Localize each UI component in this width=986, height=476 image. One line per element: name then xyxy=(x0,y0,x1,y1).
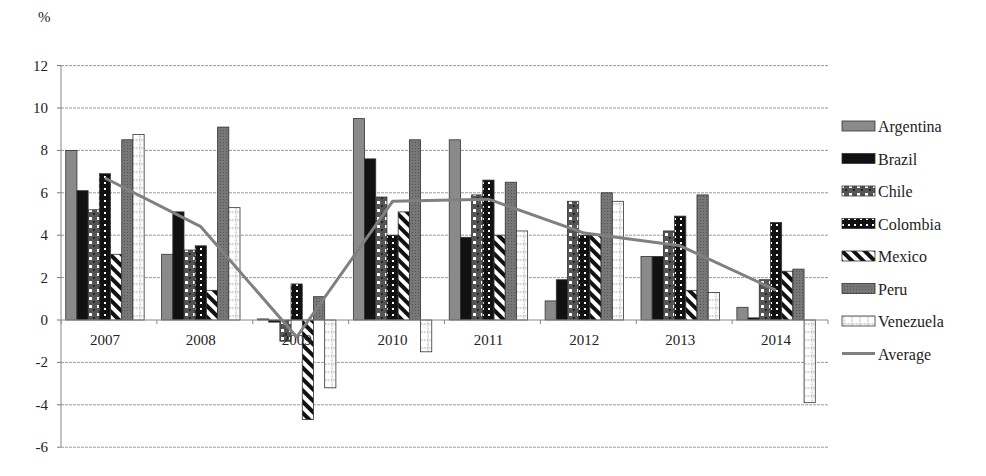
bar-mexico-2014 xyxy=(782,271,793,320)
y-axis-unit-label: % xyxy=(38,9,51,25)
bar-mexico-2010 xyxy=(398,212,409,320)
legend-swatch-brazil xyxy=(842,154,875,164)
bar-venezuela-2011 xyxy=(516,231,527,320)
bar-colombia-2014 xyxy=(770,222,781,320)
bar-mexico-2012 xyxy=(590,235,601,320)
bar-venezuela-2007 xyxy=(133,135,144,321)
bar-colombia-2009 xyxy=(291,284,302,320)
bar-chile-2012 xyxy=(568,201,579,320)
bar-argentina-2007 xyxy=(66,150,77,320)
bar-venezuela-2013 xyxy=(708,292,719,320)
legend-label: Argentina xyxy=(878,118,942,136)
y-tick-label: -4 xyxy=(36,397,49,413)
bar-peru-2007 xyxy=(122,140,133,320)
x-tick-label: 2009 xyxy=(282,332,312,348)
bar-peru-2010 xyxy=(409,140,420,320)
bar-brazil-2013 xyxy=(652,256,663,320)
y-tick-label: -6 xyxy=(36,439,49,455)
x-tick-label: 2012 xyxy=(569,332,599,348)
bar-argentina-2011 xyxy=(449,140,460,320)
bar-brazil-2007 xyxy=(77,191,88,320)
legend-label: Brazil xyxy=(878,151,918,168)
legend-label: Venezuela xyxy=(878,313,944,330)
y-tick-label: -2 xyxy=(36,354,49,370)
bar-peru-2012 xyxy=(601,193,612,320)
y-tick-label: 10 xyxy=(33,100,48,116)
bar-colombia-2012 xyxy=(579,235,590,320)
x-tick-label: 2011 xyxy=(474,332,503,348)
bar-chart: % -6-4-2024681012 2007200820092010201120… xyxy=(0,0,986,476)
legend-swatch-argentina xyxy=(842,121,875,131)
bar-colombia-2008 xyxy=(195,246,206,320)
legend-label: Average xyxy=(878,346,931,364)
legend: ArgentinaBrazilChileColombiaMexicoPeruVe… xyxy=(842,118,944,364)
x-tick-label: 2007 xyxy=(90,332,121,348)
bar-chile-2007 xyxy=(88,210,99,320)
legend-item-chile: Chile xyxy=(842,183,913,200)
bar-brazil-2012 xyxy=(556,280,567,320)
y-tick-label: 12 xyxy=(33,58,48,74)
x-tick-label: 2010 xyxy=(378,332,408,348)
y-tick-label: 4 xyxy=(41,227,49,243)
x-tick-label: 2008 xyxy=(186,332,216,348)
legend-item-venezuela: Venezuela xyxy=(842,313,944,330)
bar-peru-2011 xyxy=(505,182,516,320)
bar-colombia-2013 xyxy=(675,216,686,320)
y-tick-label: 0 xyxy=(41,312,49,328)
legend-item-peru: Peru xyxy=(842,281,907,298)
bar-brazil-2011 xyxy=(460,237,471,320)
bar-venezuela-2009 xyxy=(325,320,336,388)
bar-series xyxy=(66,119,816,420)
legend-item-brazil: Brazil xyxy=(842,151,918,168)
bar-argentina-2012 xyxy=(545,301,556,320)
legend-item-mexico: Mexico xyxy=(842,248,927,265)
bar-venezuela-2014 xyxy=(804,320,815,403)
x-tick-label: 2013 xyxy=(665,332,695,348)
bar-brazil-2008 xyxy=(173,212,184,320)
legend-swatch-venezuela xyxy=(842,316,875,326)
y-tick-label: 6 xyxy=(41,185,49,201)
bar-mexico-2007 xyxy=(111,254,122,320)
bar-chile-2008 xyxy=(184,250,195,320)
legend-swatch-peru xyxy=(842,284,875,294)
x-axis: 20072008200920102011201220132014 xyxy=(61,320,828,348)
bar-chile-2011 xyxy=(472,195,483,320)
bar-colombia-2007 xyxy=(99,174,110,320)
bar-peru-2014 xyxy=(793,269,804,320)
legend-swatch-colombia xyxy=(842,219,875,229)
bar-peru-2008 xyxy=(218,127,229,320)
legend-swatch-chile xyxy=(842,186,875,196)
legend-item-colombia: Colombia xyxy=(842,216,941,233)
bar-mexico-2011 xyxy=(494,235,505,320)
bar-mexico-2013 xyxy=(686,290,697,320)
x-tick-label: 2014 xyxy=(761,332,792,348)
bar-mexico-2008 xyxy=(206,290,217,320)
y-axis-ticks: -6-4-2024681012 xyxy=(33,58,61,456)
legend-swatch-mexico xyxy=(842,251,875,261)
bar-argentina-2014 xyxy=(737,307,748,320)
legend-label: Mexico xyxy=(878,248,927,265)
legend-item-argentina: Argentina xyxy=(842,118,942,136)
y-tick-label: 2 xyxy=(41,270,49,286)
bar-argentina-2008 xyxy=(162,254,173,320)
bar-argentina-2010 xyxy=(353,119,364,320)
legend-item-average: Average xyxy=(842,346,931,364)
bar-argentina-2013 xyxy=(641,256,652,320)
legend-label: Peru xyxy=(878,281,907,298)
legend-label: Chile xyxy=(878,183,913,200)
legend-label: Colombia xyxy=(878,216,941,233)
y-tick-label: 8 xyxy=(41,142,49,158)
bar-colombia-2010 xyxy=(387,235,398,320)
bar-venezuela-2010 xyxy=(421,320,432,352)
bar-venezuela-2012 xyxy=(612,201,623,320)
